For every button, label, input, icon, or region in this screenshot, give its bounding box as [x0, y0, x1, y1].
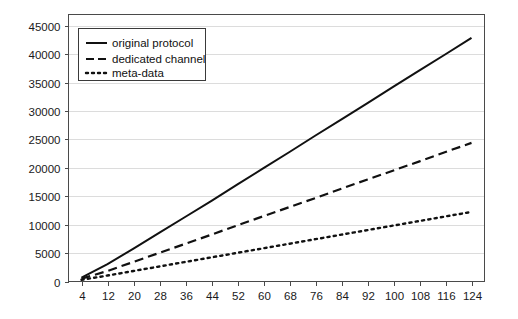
- x-axis-tick-label: 20: [128, 290, 141, 302]
- x-axis-tick-label: 76: [310, 290, 323, 302]
- y-axis-tick-label: 40000: [29, 49, 61, 61]
- x-axis-tick-label: 116: [437, 290, 455, 302]
- chart-background: [0, 0, 518, 319]
- x-axis-tick-label: 12: [102, 290, 115, 302]
- chart-canvas: 0500010000150002000025000300003500040000…: [0, 0, 518, 319]
- x-axis-tick-label: 84: [336, 290, 349, 302]
- y-axis-tick-label: 15000: [29, 191, 61, 203]
- legend-label-dedicated-channel: dedicated channel: [112, 53, 205, 65]
- x-axis-tick-label: 4: [79, 290, 86, 302]
- x-axis-tick-label: 60: [258, 290, 271, 302]
- x-axis-tick-label: 68: [284, 290, 297, 302]
- y-axis-tick-label: 0: [54, 277, 60, 289]
- y-axis-tick-label: 30000: [29, 106, 61, 118]
- x-axis-tick-label: 92: [362, 290, 375, 302]
- chart-legend: original protocol dedicated channel meta…: [79, 29, 206, 81]
- legend-label-original-protocol: original protocol: [112, 37, 193, 49]
- x-axis-tick-label: 124: [463, 290, 483, 302]
- y-axis-tick-label: 45000: [29, 21, 61, 33]
- y-axis-tick-label: 10000: [29, 220, 61, 232]
- y-axis-tick-label: 25000: [29, 134, 61, 146]
- legend-label-meta-data: meta-data: [112, 67, 164, 79]
- y-axis-tick-label: 20000: [29, 163, 61, 175]
- x-axis-tick-label: 52: [232, 290, 245, 302]
- x-axis-tick-label: 28: [154, 290, 167, 302]
- y-axis-tick-label: 5000: [35, 248, 61, 260]
- x-axis-tick-label: 100: [385, 290, 404, 302]
- x-axis-tick-label: 108: [411, 290, 430, 302]
- line-chart: 0500010000150002000025000300003500040000…: [0, 0, 518, 319]
- x-axis-tick-label: 36: [180, 290, 193, 302]
- x-axis-tick-label: 44: [206, 290, 219, 302]
- y-axis-tick-label: 35000: [29, 78, 61, 90]
